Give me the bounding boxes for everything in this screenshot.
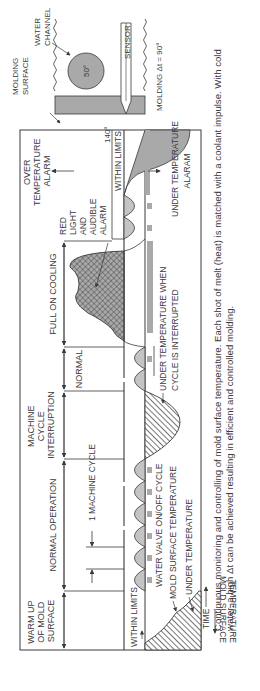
wavy-edge-bottom xyxy=(144,19,147,91)
wavy-edge-top xyxy=(54,19,57,91)
label-water-valve-cycle: WATER VALVE ON/OFF CYCLE xyxy=(154,463,164,587)
molding-surface-layer xyxy=(55,96,145,114)
rotated-figure: WARM UP OF MOLD SURFACE NORMAL OPERATION… xyxy=(0,0,260,691)
label-under-temp-interrupted: UNDER TEMPERATURE WHEN CYCLE IS INTERRUP… xyxy=(158,264,180,391)
label-one-machine-cycle: 1 MACHINE CYCLE xyxy=(87,444,97,521)
phase-label-warmup: WARM UP OF MOLD SURFACE xyxy=(26,598,56,644)
phase-label-interruption: MACHINE CYCLE INTERRUPTION xyxy=(26,391,56,459)
water-valve-pulse xyxy=(147,225,152,231)
molding-surface-label: MOLDING SURFACE xyxy=(11,55,30,95)
label-under-temperature: UNDER TEMPERATURE xyxy=(184,499,194,595)
label-within-limits-right: WITHIN LIMITS xyxy=(113,131,123,191)
interruption-dip xyxy=(145,391,180,459)
phase-label-normal-operation: NORMAL OPERATION xyxy=(48,478,58,571)
over-temperature-peak xyxy=(70,251,124,341)
phase-label-normal: NORMAL xyxy=(74,350,84,389)
phase-label-full-on-cooling: FULL ON COOLING xyxy=(48,253,58,335)
x-axis-label: TIME xyxy=(201,608,211,629)
under-temperature-area xyxy=(124,130,190,195)
temperature-scallops-normal xyxy=(135,459,146,591)
phase-label-over-temperature-alarm: OVER TEMPERATURE ALARM xyxy=(22,136,52,206)
label-red-light-alarm: RED LIGHT AND AUDIBLE ALARM xyxy=(58,196,108,235)
inset-mold-diagram: 50° SENSOR WATER CHANNEL MOLDING SURFACE… xyxy=(11,7,164,143)
figure-caption: Continuous monitoring and controlling of… xyxy=(212,31,235,631)
sensor-label: SENSOR xyxy=(123,25,132,59)
water-channel-label: WATER CHANNEL xyxy=(33,7,52,46)
molding-delta-label: MOLDING Δt = 90° xyxy=(155,43,164,111)
water-valve-pulses xyxy=(147,467,152,583)
alarm-band xyxy=(145,130,150,195)
temperature-scallops-resume xyxy=(135,347,146,391)
cooling-curve xyxy=(124,239,145,347)
water-valve-pulse xyxy=(147,203,152,209)
warmup-area xyxy=(145,591,201,650)
label-mold-surface-temperature: MOLD SURFACE TEMPERATURE xyxy=(168,466,178,599)
water-valve-pulse xyxy=(147,356,152,362)
label-within-limits-left: WITHIN LIMITS xyxy=(129,587,139,647)
full-cooling-bar xyxy=(147,241,153,333)
surface-temp-label: 140° xyxy=(103,126,112,143)
temperature-scallops-recovery xyxy=(124,195,135,239)
water-temp-label: 50° xyxy=(82,65,91,77)
